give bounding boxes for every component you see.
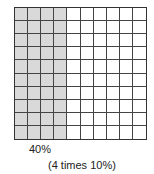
grid-cell xyxy=(133,113,146,126)
grid-cell xyxy=(81,74,94,87)
grid-cell xyxy=(120,34,133,47)
grid-cell xyxy=(81,87,94,100)
shaded-cell xyxy=(28,87,41,100)
grid-cell xyxy=(133,126,146,139)
grid-cell xyxy=(67,87,80,100)
shaded-cell xyxy=(15,8,28,21)
shaded-cell xyxy=(54,21,67,34)
grid-cell xyxy=(81,60,94,73)
shaded-cell xyxy=(41,34,54,47)
shaded-cell xyxy=(41,126,54,139)
grid-cell xyxy=(81,47,94,60)
grid-cell xyxy=(133,34,146,47)
grid-cell xyxy=(67,34,80,47)
grid-cell xyxy=(81,100,94,113)
grid-cell xyxy=(133,60,146,73)
grid-cell xyxy=(120,74,133,87)
grid-cell xyxy=(94,113,107,126)
shaded-cell xyxy=(54,60,67,73)
shaded-cell xyxy=(41,100,54,113)
grid-cell xyxy=(133,47,146,60)
shaded-cell xyxy=(28,21,41,34)
grid-cell xyxy=(107,87,120,100)
grid-cell xyxy=(133,100,146,113)
grid-cell xyxy=(133,74,146,87)
grid-cell xyxy=(67,8,80,21)
grid-cell xyxy=(94,60,107,73)
shaded-cell xyxy=(54,34,67,47)
shaded-cell xyxy=(28,113,41,126)
grid-cell xyxy=(67,60,80,73)
shaded-cell xyxy=(15,60,28,73)
grid-cell xyxy=(81,34,94,47)
percent-label: 40% xyxy=(29,143,51,155)
shaded-cell xyxy=(28,74,41,87)
grid-cell xyxy=(107,21,120,34)
shaded-cell xyxy=(28,126,41,139)
grid-cell xyxy=(81,21,94,34)
shaded-cell xyxy=(54,126,67,139)
grid-cell xyxy=(81,113,94,126)
shaded-cell xyxy=(54,8,67,21)
grid-cell xyxy=(107,100,120,113)
shaded-cell xyxy=(15,87,28,100)
grid-cell xyxy=(107,74,120,87)
shaded-cell xyxy=(54,74,67,87)
shaded-cell xyxy=(28,8,41,21)
grid-cell xyxy=(67,74,80,87)
grid-cell xyxy=(94,47,107,60)
shaded-cell xyxy=(15,100,28,113)
shaded-cell xyxy=(41,21,54,34)
grid-cell xyxy=(94,34,107,47)
grid-cell xyxy=(94,74,107,87)
shaded-cell xyxy=(41,87,54,100)
grid-cell xyxy=(67,113,80,126)
grid-cell xyxy=(120,113,133,126)
grid-cell xyxy=(67,126,80,139)
shaded-cell xyxy=(28,34,41,47)
grid-cell xyxy=(133,8,146,21)
grid-cell xyxy=(107,113,120,126)
grid-cell xyxy=(94,87,107,100)
grid-cell xyxy=(94,126,107,139)
grid-cell xyxy=(67,21,80,34)
grid-cell xyxy=(67,100,80,113)
shaded-cell xyxy=(41,8,54,21)
shaded-cell xyxy=(54,47,67,60)
grid-cell xyxy=(107,34,120,47)
shaded-cell xyxy=(41,113,54,126)
shaded-cell xyxy=(54,100,67,113)
grid-cell xyxy=(67,47,80,60)
shaded-cell xyxy=(41,74,54,87)
explanation-label: (4 times 10%) xyxy=(48,159,116,171)
grid-cell xyxy=(120,60,133,73)
shaded-cell xyxy=(41,47,54,60)
shaded-cell xyxy=(54,113,67,126)
grid-cell xyxy=(133,87,146,100)
shaded-cell xyxy=(28,60,41,73)
shaded-cell xyxy=(54,87,67,100)
grid-cell xyxy=(120,126,133,139)
grid-cell xyxy=(107,47,120,60)
shaded-cell xyxy=(41,60,54,73)
shaded-cell xyxy=(15,74,28,87)
shaded-cell xyxy=(15,47,28,60)
grid-cell xyxy=(94,21,107,34)
grid-cell xyxy=(94,8,107,21)
grid-cell xyxy=(120,8,133,21)
shaded-cell xyxy=(15,34,28,47)
grid-cell xyxy=(120,21,133,34)
shaded-cell xyxy=(15,21,28,34)
shaded-cell xyxy=(15,113,28,126)
shaded-cell xyxy=(28,47,41,60)
grid-cell xyxy=(94,100,107,113)
shaded-cell xyxy=(15,126,28,139)
hundred-square-grid xyxy=(14,7,147,140)
grid-cell xyxy=(107,8,120,21)
grid-cell xyxy=(120,87,133,100)
grid-cell xyxy=(133,21,146,34)
grid-cell xyxy=(107,60,120,73)
grid-cell xyxy=(81,126,94,139)
grid-cell xyxy=(120,100,133,113)
grid-cell xyxy=(107,126,120,139)
